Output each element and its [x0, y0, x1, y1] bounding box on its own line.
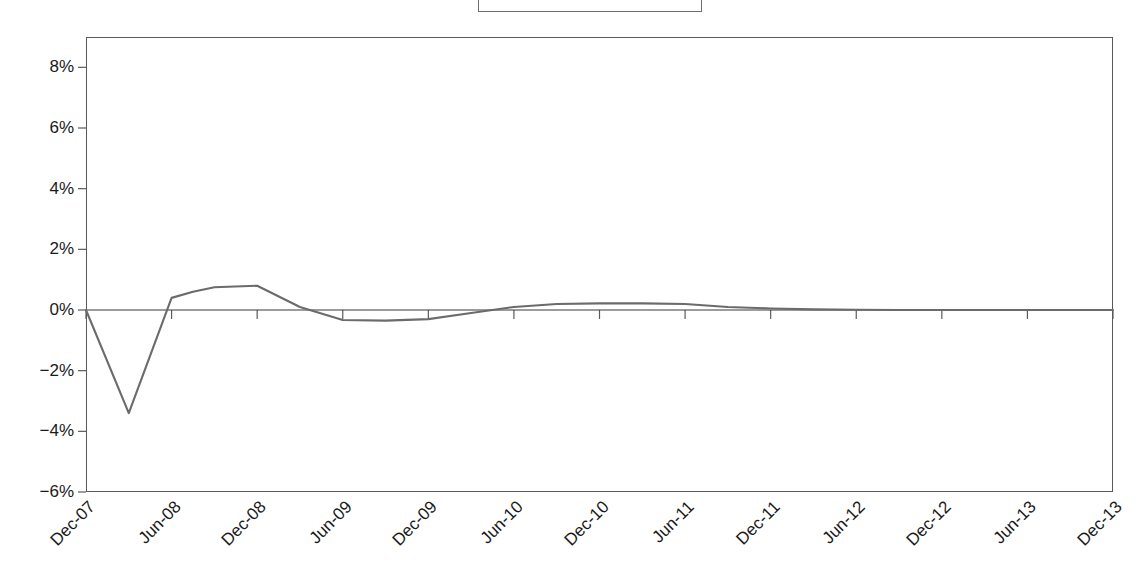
chart-plot-svg	[0, 0, 1139, 582]
chart-container: 8%6%4%2%0%−2%−4%−6% Dec-07Jun-08Dec-08Ju…	[0, 0, 1139, 582]
y-axis-ticks	[78, 67, 86, 492]
x-axis-ticks	[86, 310, 1113, 319]
data-series-line	[86, 286, 1113, 413]
